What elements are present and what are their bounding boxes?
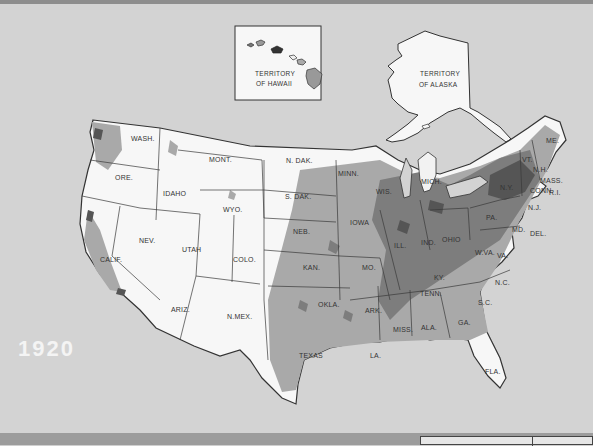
state-label-iowa: IOWA bbox=[350, 219, 369, 226]
state-label-wis: WIS. bbox=[376, 188, 392, 195]
state-label-ky: KY. bbox=[434, 274, 445, 281]
state-label-ala: ALA. bbox=[421, 324, 437, 331]
state-label-del: DEL. bbox=[530, 230, 546, 237]
state-label-la: LA. bbox=[370, 352, 381, 359]
state-label-sc: S.C. bbox=[478, 299, 492, 306]
state-label-me: ME. bbox=[546, 137, 559, 144]
state-label-ariz: ARIZ. bbox=[171, 306, 190, 313]
bottom-box-divider bbox=[532, 437, 533, 446]
state-label-vt: VT. bbox=[522, 156, 533, 163]
state-label-nmex: N.MEX. bbox=[227, 313, 252, 320]
state-label-idaho: IDAHO bbox=[163, 190, 187, 197]
state-label-conn: CONN. bbox=[530, 187, 554, 194]
state-label-wash: WASH. bbox=[131, 135, 155, 142]
state-label-miss: MISS. bbox=[393, 326, 413, 333]
state-label-nh: N.H. bbox=[533, 166, 548, 173]
hawaii-inset: TERRITORY OF HAWAII bbox=[235, 26, 322, 100]
state-label-calif: CALIF. bbox=[100, 256, 122, 263]
alaska-label-line1: TERRITORY bbox=[420, 70, 460, 77]
state-label-tenn: TENN. bbox=[420, 290, 442, 297]
state-label-utah: UTAH bbox=[182, 246, 201, 253]
state-label-ndak: N. DAK. bbox=[286, 157, 313, 164]
state-label-colo: COLO. bbox=[233, 256, 256, 263]
state-label-mo: MO. bbox=[362, 264, 376, 271]
state-label-md: MD. bbox=[512, 226, 525, 233]
state-label-neb: NEB. bbox=[293, 228, 310, 235]
state-label-wva: W.VA. bbox=[475, 249, 495, 256]
hawaii-label-line1: TERRITORY bbox=[255, 70, 295, 77]
state-label-okla: OKLA. bbox=[318, 301, 340, 308]
state-label-va: VA. bbox=[497, 252, 508, 259]
alaska-label-line2: OF ALASKA bbox=[419, 81, 458, 88]
state-label-fla: FLA. bbox=[485, 368, 501, 375]
state-label-sdak: S. DAK. bbox=[285, 193, 311, 200]
hawaii-label-line2: OF HAWAII bbox=[256, 80, 292, 87]
state-label-minn: MINN. bbox=[338, 170, 359, 177]
bottom-caption-box bbox=[420, 436, 593, 445]
state-label-ga: GA. bbox=[458, 319, 471, 326]
state-label-ohio: OHIO bbox=[442, 236, 461, 243]
state-label-kan: KAN. bbox=[303, 264, 320, 271]
state-label-mass: MASS. bbox=[540, 177, 563, 184]
state-label-texas: TEXAS bbox=[299, 352, 323, 359]
state-label-pa: PA. bbox=[486, 214, 497, 221]
state-label-nev: NEV. bbox=[139, 237, 156, 244]
state-label-nj: N.J. bbox=[528, 204, 541, 211]
state-label-ind: IND. bbox=[421, 239, 436, 246]
state-label-mont: MONT. bbox=[209, 156, 232, 163]
alaska-inset: TERRITORY OF ALASKA bbox=[386, 31, 511, 142]
state-label-wyo: WYO. bbox=[223, 206, 242, 213]
state-label-ore: ORE. bbox=[115, 174, 133, 181]
year-label: 1920 bbox=[18, 336, 75, 362]
state-label-nc: N.C. bbox=[495, 279, 510, 286]
state-label-ill: ILL. bbox=[394, 242, 406, 249]
state-label-ny: N.Y. bbox=[500, 184, 514, 191]
state-label-mich: MICH. bbox=[421, 178, 442, 185]
state-label-ark: ARK. bbox=[365, 307, 382, 314]
